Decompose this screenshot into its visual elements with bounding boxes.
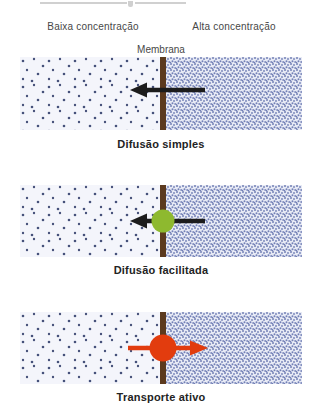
high-concentration-dots (166, 57, 302, 130)
panel-facilitated-diffusion (20, 185, 302, 257)
low-concentration-label: Baixa concentração (20, 21, 166, 32)
caption-simple-diffusion: Difusão simples (0, 138, 322, 150)
remnant-segment (40, 2, 127, 4)
pump-protein-circle (150, 335, 177, 362)
panel-simple-diffusion (20, 57, 302, 130)
remnant-segment (135, 2, 186, 4)
high-concentration-label: Alta concentração (166, 21, 302, 32)
membrane-transport-diagram: Baixa concentração Alta concentração Mem… (0, 0, 322, 413)
carrier-protein-circle (152, 210, 175, 233)
panel-active-transport (20, 312, 302, 384)
remnant-segment (128, 1, 133, 7)
membrane-bar (160, 57, 166, 130)
caption-active-transport: Transporte ativo (0, 391, 322, 403)
caption-facilitated-diffusion: Difusão facilitada (0, 264, 322, 276)
membrane-label: Membrana (0, 44, 322, 55)
